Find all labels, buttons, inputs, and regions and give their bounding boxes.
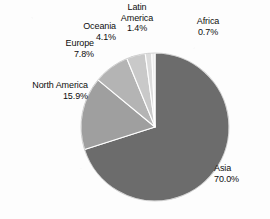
pie-chart-screenshot: Latin America 1.4% Africa 0.7% Oceania 4… — [0, 0, 270, 219]
pie-label-africa-text: Africa — [186, 16, 230, 27]
pie-label-asia: Asia 70.0% — [214, 163, 264, 184]
pie-label-oceania-text: Oceania — [60, 21, 116, 32]
pie-label-africa: Africa 0.7% — [186, 16, 230, 37]
pie-value-asia: 70.0% — [214, 174, 264, 185]
pie-label-latin-america-line2: America — [108, 13, 166, 24]
pie-label-asia-text: Asia — [214, 163, 264, 174]
pie-label-north-america: North America 15.9% — [6, 80, 88, 101]
pie-label-latin-america-line1: Latin — [108, 2, 166, 13]
pie-value-latin-america: 1.4% — [108, 23, 166, 34]
pie-value-africa: 0.7% — [186, 27, 230, 38]
pie-label-north-america-text: North America — [6, 80, 88, 91]
pie-label-europe-text: Europe — [38, 38, 94, 49]
pie-value-north-america: 15.9% — [6, 91, 88, 102]
pie-slice-group — [81, 53, 229, 201]
pie-value-europe: 7.8% — [38, 49, 94, 60]
pie-label-latin-america: Latin America 1.4% — [108, 2, 166, 34]
pie-label-europe: Europe 7.8% — [38, 38, 94, 59]
